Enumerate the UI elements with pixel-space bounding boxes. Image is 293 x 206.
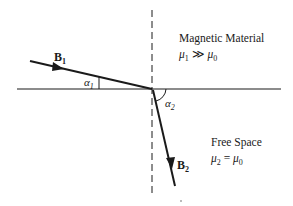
mu0-symbol-2: μ <box>233 152 239 164</box>
much-greater-operator: ≫ <box>192 48 205 60</box>
b2-symbol: B <box>177 158 185 172</box>
b1-symbol: B <box>54 50 62 64</box>
equals-operator: = <box>224 152 231 164</box>
diagram-canvas <box>0 0 293 206</box>
alpha2-label: α2 <box>165 97 175 111</box>
b2-label: B2 <box>177 159 189 173</box>
mu0-subscript: 0 <box>213 54 217 63</box>
free-space-title: Free Space <box>211 136 262 149</box>
magnetic-material-relation: μ1 ≫ μ0 <box>179 48 217 62</box>
alpha2-subscript: 2 <box>171 103 175 112</box>
free-space-relation: μ2 = μ0 <box>211 152 243 166</box>
alpha1-symbol: α <box>84 76 90 88</box>
b1-subscript: 1 <box>62 57 66 66</box>
mu2-symbol: μ <box>211 152 217 164</box>
b2-subscript: 2 <box>185 165 189 174</box>
speck-dot <box>180 200 181 201</box>
alpha2-symbol: α <box>165 97 171 109</box>
magnetic-material-title: Magnetic Material <box>179 32 264 45</box>
b1-label: B1 <box>54 51 66 65</box>
mu2-subscript: 2 <box>217 158 221 167</box>
mu1-subscript: 1 <box>185 54 189 63</box>
mu0-subscript-2: 0 <box>239 158 243 167</box>
alpha1-subscript: 1 <box>90 82 94 91</box>
mu1-symbol: μ <box>179 48 185 60</box>
alpha1-label: α1 <box>84 76 94 90</box>
